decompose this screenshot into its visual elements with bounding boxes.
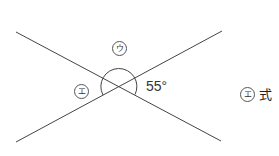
circled-e: エ bbox=[74, 84, 89, 99]
circled-e-answer: エ bbox=[240, 87, 255, 102]
answer-prompt: エ 式 bbox=[240, 87, 272, 102]
angle-label-u: ウ bbox=[112, 38, 127, 56]
angle-label-e: エ bbox=[74, 81, 89, 99]
answer-label: 式 bbox=[259, 88, 272, 101]
angle-label-55: 55° bbox=[146, 79, 167, 93]
circled-u: ウ bbox=[112, 41, 127, 56]
angle-arc bbox=[101, 69, 137, 95]
intersecting-lines-diagram bbox=[0, 0, 279, 156]
